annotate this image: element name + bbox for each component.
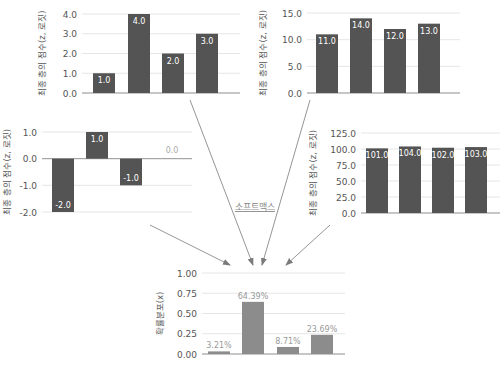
y-tick-label: 4.0 [63, 10, 78, 20]
y-axis-label: 최종 층의 점수(z, 로짓) [37, 11, 47, 97]
bar [311, 335, 333, 354]
y-tick-label: 0.25 [177, 329, 197, 339]
bar [208, 351, 230, 354]
chart-top-left: 0.01.02.03.04.0최종 층의 점수(z, 로짓)1.04.02.03… [37, 10, 240, 99]
bar-value-label: 4.0 [133, 17, 146, 26]
bar-value-label: 64.39% [238, 292, 269, 301]
bar-value-label: 101.0 [366, 151, 389, 160]
y-axis-label: 최종 층의 점수(z, 로짓) [308, 130, 318, 216]
arrows-layer [150, 100, 330, 265]
figure-canvas: 0.01.02.03.04.0최종 층의 점수(z, 로짓)1.04.02.03… [0, 0, 502, 368]
y-tick-label: 0.0 [288, 89, 303, 99]
y-axis-label: 확률분포(x) [155, 292, 165, 336]
y-tick-label: 15.0 [282, 9, 302, 19]
y-tick-label: 1.0 [23, 128, 38, 138]
y-tick-label: 1.00 [177, 269, 197, 279]
bar-value-label: 11.0 [318, 37, 336, 46]
y-axis-label: 최종 층의 점수(z, 로짓) [258, 10, 268, 96]
y-tick-label: 100.0 [330, 145, 356, 155]
arrow [150, 225, 230, 265]
y-tick-label: 125.0 [330, 129, 356, 139]
y-tick-label: 0.0 [63, 89, 78, 99]
bar-value-label: 2.0 [167, 57, 180, 66]
y-tick-label: 0.00 [177, 350, 197, 360]
bar-value-label: 1.0 [91, 135, 104, 144]
y-tick-label: 50.0 [336, 177, 356, 187]
y-tick-label: 1.0 [63, 69, 78, 79]
bar [277, 347, 299, 354]
bar-value-label: 102.0 [432, 151, 455, 160]
y-tick-label: 25.0 [336, 193, 356, 203]
bar-value-label: 8.71% [275, 337, 301, 346]
y-tick-label: 0.0 [23, 154, 38, 164]
arrow [190, 100, 253, 265]
chart-bottom: 0.000.250.500.751.00확률분포(x)3.21%64.39%8.… [155, 269, 345, 360]
bar-value-label: 104.0 [399, 149, 422, 158]
y-tick-label: -1.0 [19, 181, 37, 191]
y-tick-label: 75.0 [336, 161, 356, 171]
y-tick-label: 3.0 [63, 29, 78, 39]
bar-value-label: 14.0 [352, 21, 370, 30]
bar-value-label: 3.21% [206, 341, 232, 350]
y-tick-label: 5.0 [288, 62, 303, 72]
bar-value-label: -1.0 [123, 174, 139, 183]
bar-value-label: -2.0 [55, 201, 71, 210]
chart-top-right: 0.05.010.015.0최종 층의 점수(z, 로짓)11.014.012.… [258, 9, 460, 99]
y-axis-label: 최종 층의 점수(z, 로짓) [2, 129, 12, 215]
chart-middle-right: 0.025.050.075.0100.0125.0최종 층의 점수(z, 로짓)… [308, 129, 500, 219]
softmax-label: 소프트맥스 [235, 202, 275, 212]
y-tick-label: 0.50 [177, 309, 197, 319]
charts-layer: 0.01.02.03.04.0최종 층의 점수(z, 로짓)1.04.02.03… [2, 9, 500, 360]
bar-value-label: 3.0 [201, 37, 214, 46]
bar-value-label: 13.0 [420, 27, 438, 36]
chart-middle-left: -2.0-1.00.01.0최종 층의 점수(z, 로짓)-2.01.0-1.0… [2, 128, 192, 218]
y-tick-label: 10.0 [282, 35, 302, 45]
bar-value-label: 103.0 [465, 150, 488, 159]
bar-value-label: 1.0 [98, 76, 111, 85]
arrow [286, 225, 330, 265]
y-tick-label: 0.75 [177, 289, 197, 299]
bar-value-label: 0.0 [166, 146, 179, 155]
bar-value-label: 23.69% [307, 325, 338, 334]
y-tick-label: 0.0 [342, 209, 357, 219]
y-tick-label: 2.0 [63, 49, 78, 59]
arrow [262, 100, 310, 265]
y-tick-label: -2.0 [19, 208, 37, 218]
bar [242, 302, 264, 354]
bar-value-label: 12.0 [386, 32, 404, 41]
